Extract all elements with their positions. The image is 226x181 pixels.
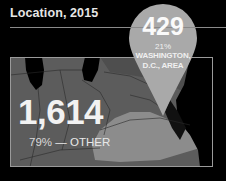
other-label: OTHER <box>70 136 110 148</box>
dc-label-line2: D.C., AREA <box>118 61 208 71</box>
dc-count: 429 <box>130 14 196 39</box>
other-dash: — <box>55 136 67 148</box>
dc-percent: 21% <box>122 43 204 51</box>
dc-label-line1: WASHINGTON, <box>118 51 208 61</box>
other-label-row: 79% — OTHER <box>29 137 110 149</box>
chart-title: Location, 2015 <box>10 6 98 20</box>
dc-label: WASHINGTON, D.C., AREA <box>118 51 208 70</box>
other-percent: 79% <box>29 136 52 148</box>
other-count: 1,614 <box>18 94 103 129</box>
